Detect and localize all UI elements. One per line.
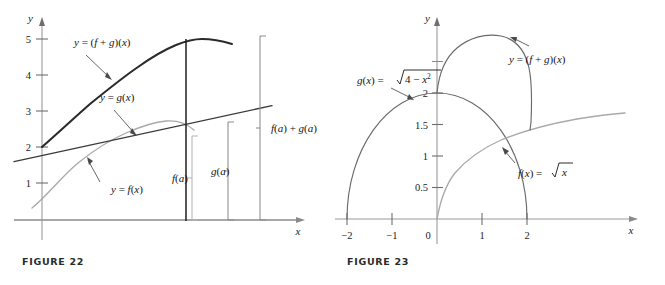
fa-bracket-label: f(a) [172, 172, 188, 185]
sum-curve [437, 35, 532, 130]
sum-curve-label: y = (f + g)(x) [73, 36, 131, 49]
x-tick-label-neg1: −1 [386, 230, 397, 241]
x-axis-label: x [295, 225, 301, 237]
x-axis-label: x [628, 224, 634, 236]
y-tick-label-1p5: 1.5 [415, 120, 428, 131]
y-axis-arrowhead [434, 17, 440, 26]
figure-22-plot: 5 4 3 2 1 y x y = (f + g)(x) [0, 0, 333, 285]
y-tick-label-4: 4 [26, 70, 32, 81]
y-axis-arrowhead [39, 17, 45, 26]
f-curve-leader-arrow [87, 157, 93, 165]
y-tick-label-0p5: 0.5 [415, 182, 428, 193]
g-curve [14, 106, 272, 162]
y-tick-label-5: 5 [26, 34, 31, 45]
ga-bracket-label: g(a) [211, 165, 230, 178]
figure-23-caption: FIGURE 23 [347, 256, 409, 267]
y-tick-label-2: 2 [26, 142, 31, 153]
y-axis-label: y [424, 12, 430, 24]
figure-22: 5 4 3 2 1 y x y = (f + g)(x) [0, 0, 333, 285]
figure-22-caption: FIGURE 22 [22, 256, 84, 267]
y-tick-label-1: 1 [423, 151, 428, 162]
x-tick-label-0: 0 [425, 230, 430, 241]
svg-text:x: x [561, 166, 567, 178]
x-tick-label-2: 2 [524, 230, 529, 241]
g-curve-label: y = g(x) [99, 91, 135, 104]
f-curve-label: y = f(x) [110, 183, 143, 196]
svg-text:4 − x2: 4 − x2 [405, 72, 431, 85]
fa-bracket [192, 136, 198, 220]
sum-curve-leader-arrow [105, 72, 112, 80]
x-axis-arrowhead [296, 217, 305, 223]
y-tick-label-3: 3 [26, 106, 31, 117]
y-axis-label: y [27, 12, 33, 24]
svg-text:g(x) =: g(x) = [357, 74, 384, 87]
sum-curve-label: y = (f + g)(x) [508, 53, 566, 66]
sum-bracket-label: f(a) + g(a) [271, 122, 317, 135]
y-tick-label-1: 1 [26, 178, 31, 189]
figure-23: 0.5 1 1.5 2 −2 −1 0 1 2 y x g [333, 0, 665, 285]
x-tick-label-1: 1 [479, 230, 484, 241]
f-curve-label: f(x) = x [518, 163, 573, 180]
sum-curve [42, 39, 232, 147]
x-axis-arrowhead [629, 216, 638, 222]
f-curve-leader-arrow [502, 147, 509, 155]
svg-text:f(x) =: f(x) = [518, 167, 542, 180]
g-curve-label: g(x) = 4 − x2 [357, 70, 441, 87]
figure-23-plot: 0.5 1 1.5 2 −2 −1 0 1 2 y x g [333, 0, 665, 285]
sum-bracket [260, 36, 266, 220]
f-sqrt-curve [437, 113, 625, 219]
x-tick-label-neg2: −2 [341, 230, 352, 241]
